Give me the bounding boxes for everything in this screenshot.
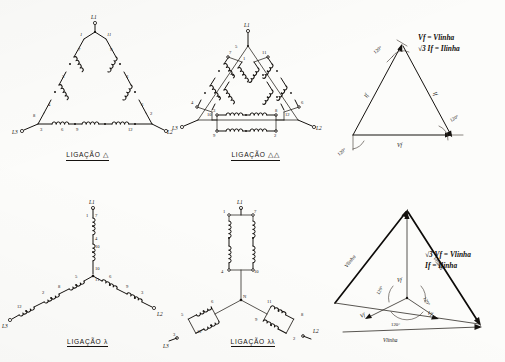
svg-text:4: 4 xyxy=(95,236,98,241)
svg-text:2: 2 xyxy=(150,111,153,116)
caption-delta: LIGAÇÃO △ xyxy=(0,143,175,161)
angle-left: 120° xyxy=(337,135,364,157)
svg-text:3: 3 xyxy=(213,108,216,113)
svg-text:9: 9 xyxy=(255,317,258,322)
svg-text:3: 3 xyxy=(126,74,129,79)
svg-text:12: 12 xyxy=(17,304,22,309)
svg-text:8: 8 xyxy=(33,113,36,118)
svg-text:L3: L3 xyxy=(171,125,178,131)
svg-text:5: 5 xyxy=(75,274,78,279)
svg-text:1: 1 xyxy=(243,56,246,61)
caption-star-text: LIGAÇÃO xyxy=(67,338,101,345)
caption-star-symbol: λ xyxy=(104,338,108,345)
edge-label-if-right: If xyxy=(432,90,440,98)
caption-double-delta-symbol: △△ xyxy=(268,151,279,158)
angle-apex-label: 120° xyxy=(373,45,383,55)
svg-text:9: 9 xyxy=(126,284,129,289)
winding-left-upper: 7 5 xyxy=(59,39,84,85)
angle-center-right-label: 120° xyxy=(422,296,431,306)
svg-text:L1: L1 xyxy=(88,199,95,205)
winding-bottom-pair: 3 8 9 2 xyxy=(212,108,284,138)
caption-double-delta-text: LIGAÇÃO xyxy=(231,151,265,158)
winding-left-lower: 4 8 xyxy=(33,84,69,124)
svg-text:4: 4 xyxy=(191,100,194,105)
branch-l1: L1 1 7 4 10 10 xyxy=(86,199,100,274)
diagram-phasor-star: 120° 120° 120° Vf Vf Vf Vlinha Vlinha Vl… xyxy=(333,190,505,360)
winding-right-lower: 6 2 xyxy=(123,85,153,124)
angle-center-bottom-label: 120° xyxy=(391,322,400,327)
branch-l2: 6 9 3 L2 xyxy=(93,274,163,317)
angle-center-left-label: 120° xyxy=(375,285,384,295)
line-label-vlinha-left: Vlinha xyxy=(343,253,357,268)
svg-text:6: 6 xyxy=(211,299,214,304)
svg-text:2: 2 xyxy=(274,133,277,138)
formula-star-voltage: √3 Vf = Vlinha xyxy=(425,250,471,261)
edge-label-vf-bottom: Vf xyxy=(397,142,403,148)
winding-top-pair: 1 7 4 10 xyxy=(221,209,259,274)
svg-text:7: 7 xyxy=(95,213,98,218)
svg-text:6: 6 xyxy=(141,102,144,107)
formula-delta-voltage: Vf = Vlinha xyxy=(418,33,460,44)
svg-text:7: 7 xyxy=(229,50,232,55)
svg-text:12: 12 xyxy=(128,127,133,132)
winding-right-upper: 9 3 xyxy=(106,39,131,85)
caption-double-star-text: LIGAÇÃO xyxy=(231,338,265,345)
caption-star: LIGAÇÃO λ xyxy=(0,330,175,348)
caption-delta-text: LIGAÇÃO xyxy=(66,151,100,158)
svg-text:9: 9 xyxy=(76,127,79,132)
svg-text:11: 11 xyxy=(267,299,272,304)
caption-double-delta: LIGAÇÃO △△ xyxy=(168,143,343,161)
svg-text:L3: L3 xyxy=(1,323,8,329)
svg-text:1: 1 xyxy=(223,209,226,214)
winding-left-pair: 7 4 1 10 5 xyxy=(191,44,249,120)
svg-text:12: 12 xyxy=(285,112,290,117)
angle-right-label: 120° xyxy=(449,114,459,123)
svg-text:6: 6 xyxy=(109,274,112,279)
svg-text:L2: L2 xyxy=(315,125,322,131)
svg-text:6: 6 xyxy=(61,127,64,132)
svg-text:5: 5 xyxy=(235,44,238,49)
terminal-l3: L3 xyxy=(171,120,198,131)
caption-delta-symbol: △ xyxy=(103,151,109,158)
svg-text:7: 7 xyxy=(78,47,81,52)
svg-text:2: 2 xyxy=(42,290,45,295)
svg-text:L1: L1 xyxy=(243,22,250,28)
svg-text:8: 8 xyxy=(275,108,278,113)
svg-text:10: 10 xyxy=(254,269,259,274)
svg-text:10: 10 xyxy=(95,266,100,271)
svg-text:11: 11 xyxy=(107,32,111,37)
angle-arcs-center: 120° 120° 120° xyxy=(375,285,430,327)
svg-text:5: 5 xyxy=(181,312,184,317)
svg-text:4: 4 xyxy=(48,102,51,107)
svg-text:4: 4 xyxy=(221,269,224,274)
terminal-l1: L1 xyxy=(236,199,243,215)
phase-label-vf-left: Vf xyxy=(359,311,367,319)
svg-text:L3: L3 xyxy=(11,129,18,135)
terminal-l1: L1 xyxy=(243,22,250,45)
line-label-vlinha-bottom: Vlinha xyxy=(383,337,398,343)
svg-text:1: 1 xyxy=(80,32,82,37)
svg-text:10: 10 xyxy=(207,112,212,117)
terminal-l1: L1 xyxy=(90,14,97,32)
svg-text:L1: L1 xyxy=(90,14,97,20)
svg-text:6: 6 xyxy=(301,100,304,105)
svg-text:11: 11 xyxy=(262,50,267,55)
svg-text:3: 3 xyxy=(141,290,144,295)
caption-double-star: LIGAÇÃO λλ xyxy=(163,330,343,348)
formula-star-current: If = Ilinha xyxy=(425,261,471,272)
svg-text:10: 10 xyxy=(95,244,100,249)
svg-text:8: 8 xyxy=(58,284,61,289)
edge-label-if-left: If xyxy=(362,91,370,99)
diagram-delta: L1 1 11 7 5 4 8 xyxy=(0,2,175,162)
phase-label-vf-top: Vf xyxy=(397,277,403,283)
svg-text:L1: L1 xyxy=(236,199,243,205)
winding-bottom: 6 9 3 12 xyxy=(38,122,152,132)
branch-l3: 5 8 2 12 L3 xyxy=(1,274,93,329)
svg-text:7: 7 xyxy=(254,209,257,214)
svg-text:1: 1 xyxy=(86,213,89,218)
terminal-l2: L2 xyxy=(298,120,322,131)
formula-delta-current: √3 If = Ilinha xyxy=(418,44,460,55)
formulas-star: √3 Vf = Vlinha If = Ilinha xyxy=(425,250,471,271)
angle-apex: 120° xyxy=(373,40,409,62)
terminal-l3: L3 xyxy=(11,124,38,135)
